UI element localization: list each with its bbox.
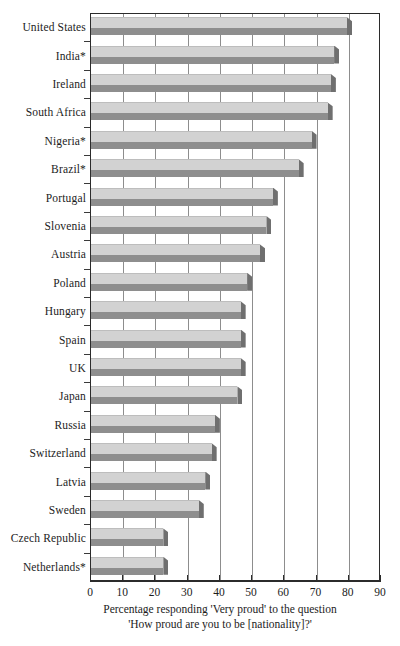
bar-chart: United StatesIndia*IrelandSouth AfricaNi… xyxy=(0,0,400,646)
bar-side-face xyxy=(163,528,168,546)
y-axis-tick xyxy=(84,439,90,440)
category-label: UK xyxy=(0,362,86,374)
bar-side-face xyxy=(266,216,271,234)
y-axis-tick xyxy=(84,41,90,42)
bar-front-face xyxy=(91,568,163,575)
bar-row: Nigeria* xyxy=(0,127,400,155)
bar-row: UK xyxy=(0,354,400,382)
bar-front-face xyxy=(91,426,215,433)
category-label: Netherlands* xyxy=(0,561,86,573)
bar-front-face xyxy=(91,369,241,376)
category-label: Poland xyxy=(0,277,86,289)
bar-top-face xyxy=(91,472,205,483)
bar-row: Netherlands* xyxy=(0,553,400,581)
y-axis-tick xyxy=(84,240,90,241)
bar-top-face xyxy=(91,330,241,341)
y-axis-tick xyxy=(84,496,90,497)
bar-row: Brazil* xyxy=(0,155,400,183)
bar-front-face xyxy=(91,142,312,149)
category-label: Japan xyxy=(0,390,86,402)
bar xyxy=(91,528,168,548)
bar-side-face xyxy=(241,358,246,376)
y-axis-tick xyxy=(84,127,90,128)
bar-row: Latvia xyxy=(0,467,400,495)
bar-side-face xyxy=(199,500,204,518)
y-axis-tick xyxy=(84,70,90,71)
bar xyxy=(91,188,278,208)
category-label: Czech Republic xyxy=(0,532,86,544)
bar-top-face xyxy=(91,46,334,57)
x-axis-tick xyxy=(348,575,349,582)
category-label: Switzerland xyxy=(0,447,86,459)
y-axis-tick xyxy=(84,354,90,355)
bar-front-face xyxy=(91,199,273,206)
category-label: South Africa xyxy=(0,106,86,118)
x-axis-caption: Percentage responding 'Very proud' to th… xyxy=(60,602,380,631)
y-axis-tick xyxy=(84,411,90,412)
category-label: Portugal xyxy=(0,192,86,204)
bar-row: Slovenia xyxy=(0,212,400,240)
category-label: Russia xyxy=(0,419,86,431)
bar xyxy=(91,301,246,321)
bar xyxy=(91,415,220,435)
bar-front-face xyxy=(91,539,163,546)
bar-top-face xyxy=(91,131,312,142)
bar xyxy=(91,500,204,520)
category-label: India* xyxy=(0,50,86,62)
bar-top-face xyxy=(91,216,266,227)
bar-row: Switzerland xyxy=(0,439,400,467)
bar-row: Poland xyxy=(0,269,400,297)
bar-side-face xyxy=(237,386,242,404)
y-axis-tick xyxy=(84,553,90,554)
bar-side-face xyxy=(347,17,352,35)
bar-top-face xyxy=(91,528,163,539)
bar-side-face xyxy=(205,472,210,490)
bar-front-face xyxy=(91,341,241,348)
bar-row: Hungary xyxy=(0,297,400,325)
bar xyxy=(91,131,317,151)
bar-front-face xyxy=(91,397,237,404)
bar xyxy=(91,273,252,293)
caption-line-2: 'How proud are you to be [nationality]?' xyxy=(60,617,380,632)
category-label: Sweden xyxy=(0,504,86,516)
category-label: Nigeria* xyxy=(0,135,86,147)
bar-side-face xyxy=(215,415,220,433)
bar xyxy=(91,557,168,577)
bar-top-face xyxy=(91,244,260,255)
caption-line-1: Percentage responding 'Very proud' to th… xyxy=(60,602,380,617)
bar xyxy=(91,216,271,236)
bar-row: South Africa xyxy=(0,98,400,126)
x-axis-tick xyxy=(122,575,123,582)
x-axis-line xyxy=(90,581,381,582)
bar-side-face xyxy=(260,244,265,262)
y-axis-tick xyxy=(84,467,90,468)
bar-front-face xyxy=(91,284,247,291)
bar-side-face xyxy=(241,301,246,319)
bar-side-face xyxy=(334,46,339,64)
category-label: Slovenia xyxy=(0,220,86,232)
bar-side-face xyxy=(212,443,217,461)
y-axis-tick xyxy=(84,524,90,525)
bar-top-face xyxy=(91,188,273,199)
bar-side-face xyxy=(163,557,168,575)
bar-top-face xyxy=(91,415,215,426)
bar-side-face xyxy=(247,273,252,291)
bar-side-face xyxy=(241,330,246,348)
x-axis-tick xyxy=(316,575,317,582)
category-label: Austria xyxy=(0,248,86,260)
bar-front-face xyxy=(91,227,266,234)
bar-front-face xyxy=(91,85,331,92)
y-axis-tick xyxy=(84,297,90,298)
bar xyxy=(91,46,339,66)
bar-front-face xyxy=(91,312,241,319)
y-axis-tick xyxy=(84,325,90,326)
bar-side-face xyxy=(328,102,333,120)
y-axis-tick xyxy=(84,183,90,184)
y-axis-tick xyxy=(84,212,90,213)
bar-front-face xyxy=(91,28,347,35)
x-axis-tick xyxy=(90,575,91,582)
category-label: Spain xyxy=(0,334,86,346)
category-rows: United StatesIndia*IrelandSouth AfricaNi… xyxy=(0,13,400,581)
bar-row: Japan xyxy=(0,382,400,410)
bar-top-face xyxy=(91,74,331,85)
